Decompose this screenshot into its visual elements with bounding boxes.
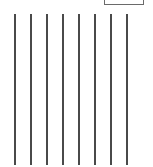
vertical-line — [94, 14, 96, 165]
vertical-line — [30, 14, 32, 165]
vertical-line — [62, 14, 64, 165]
vertical-line — [14, 14, 16, 165]
vertical-line — [126, 14, 128, 165]
vertical-line — [110, 14, 112, 165]
header-box — [104, 0, 144, 5]
vertical-line — [46, 14, 48, 165]
vertical-line — [78, 14, 80, 165]
